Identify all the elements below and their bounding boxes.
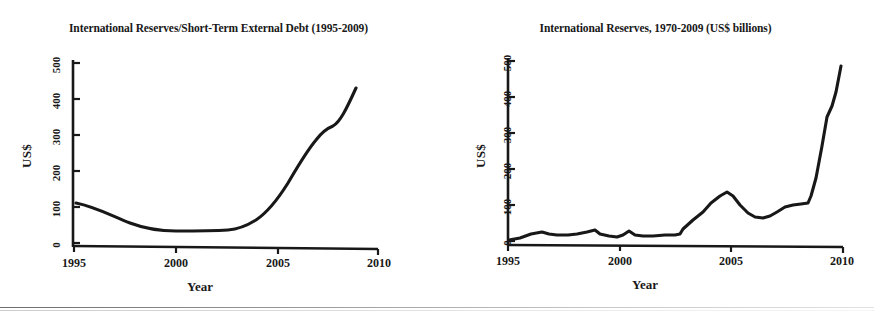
page-divider-rule: [0, 307, 874, 308]
plot-area-right: [437, 0, 874, 300]
chart-panel-right: International Reserves, 1970-2009 (US$ b…: [437, 0, 874, 300]
figure-two-line-charts: International Reserves/Short-Term Extern…: [0, 0, 874, 319]
data-line-left: [76, 88, 356, 231]
page-divider-rule-shadow: [0, 310, 874, 311]
data-line-right: [509, 66, 841, 240]
chart-panel-left: International Reserves/Short-Term Extern…: [0, 0, 437, 300]
plot-area-left: [0, 0, 437, 300]
x-axis-line-right: [508, 245, 843, 247]
x-axis-line-left: [73, 246, 378, 249]
